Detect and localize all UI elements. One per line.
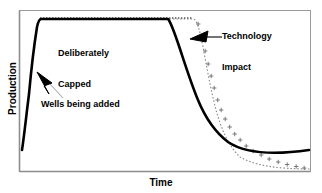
annotation-wells-being-added: Wells being added [41,99,120,109]
chart-canvas [0,0,322,193]
x-axis-label: Time [0,177,322,188]
annotation-technology-impact-line2: Impact [222,62,272,72]
annotation-deliberately-capped-line1: Deliberately [58,48,109,58]
production-vs-time-chart: Deliberately Capped Technology Impact We… [0,0,322,193]
annotation-deliberately-capped: Deliberately Capped [58,27,109,110]
annotation-technology-impact-line1: Technology [222,31,272,41]
annotation-deliberately-capped-line2: Capped [58,79,109,89]
y-axis-label: Production [7,44,18,134]
annotation-technology-impact: Technology Impact [222,10,272,93]
